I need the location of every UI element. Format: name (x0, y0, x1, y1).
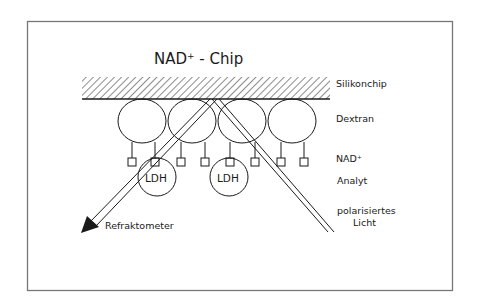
label-nad: NAD+ (336, 153, 362, 164)
title-suffix: - Chip (195, 50, 244, 68)
nad-linkers (128, 142, 308, 166)
dextran-cell (168, 99, 216, 143)
nad-square (226, 158, 234, 166)
title-text: NAD (154, 50, 187, 68)
title-superscript: + (187, 51, 195, 61)
nad-square (277, 158, 285, 166)
label-polarized-light-line2: Licht (353, 217, 376, 228)
diagram-canvas (0, 0, 477, 307)
label-silikonchip: Silikonchip (336, 78, 387, 89)
nad-square (201, 158, 209, 166)
nad-text: NAD (336, 153, 357, 164)
label-dextran: Dextran (336, 113, 374, 124)
label-analyt: Analyt (337, 175, 367, 186)
label-refraktometer: Refraktometer (105, 220, 174, 231)
ldh-label-1: LDH (145, 172, 167, 184)
dextran-cell (118, 99, 166, 143)
silicon-chip-layer (82, 77, 330, 99)
dextran-layer (118, 99, 316, 143)
label-polarized-light-line1: polarisiertes (337, 205, 396, 216)
nad-square (128, 158, 136, 166)
nad-square (177, 158, 185, 166)
nad-square (300, 158, 308, 166)
nad-square (251, 158, 259, 166)
dextran-cell (268, 99, 316, 143)
nad-square (151, 158, 159, 166)
arrow-head-icon (81, 216, 99, 233)
chip-title: NAD+ - Chip (154, 50, 243, 68)
ldh-label-2: LDH (217, 172, 239, 184)
nad-superscript: + (357, 154, 362, 160)
